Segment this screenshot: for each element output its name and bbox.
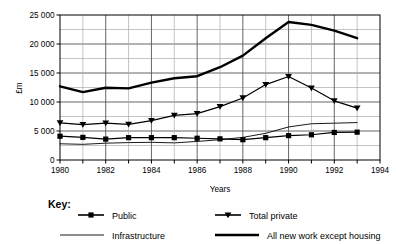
marker-square: [286, 133, 291, 138]
y-tick-label: 15 000: [29, 69, 54, 78]
marker-square: [149, 135, 154, 140]
y-tick-label: 20 000: [29, 40, 54, 49]
legend-label: Total private: [249, 211, 298, 221]
x-tick-label: 1990: [279, 166, 298, 175]
marker-square: [217, 136, 222, 141]
legend-label: All new work except housing: [267, 231, 381, 241]
legend-label: Public: [112, 211, 137, 221]
marker-square: [263, 135, 268, 140]
marker-square: [57, 134, 62, 139]
marker-square: [172, 135, 177, 140]
y-axis-title: £m: [15, 82, 24, 94]
x-tick-label: 1982: [97, 166, 116, 175]
x-tick-label: 1984: [142, 166, 161, 175]
x-tick-label: 1980: [51, 166, 70, 175]
x-axis-title: Years: [210, 185, 231, 194]
y-tick-label: 10 000: [29, 98, 54, 107]
construction-output-line-chart: 05 00010 00015 00020 00025 000 198019821…: [0, 0, 396, 244]
marker-square: [332, 130, 337, 135]
y-tick-label: 0: [50, 156, 55, 165]
y-tick-label: 25 000: [29, 11, 54, 20]
marker-square: [309, 132, 314, 137]
marker-square: [126, 135, 131, 140]
y-tick-label: 5 000: [34, 127, 55, 136]
x-tick-label: 1988: [234, 166, 253, 175]
marker-square: [88, 212, 93, 217]
marker-square: [103, 137, 108, 142]
chart-figure: 05 00010 00015 00020 00025 000 198019821…: [0, 0, 396, 244]
x-tick-label: 1994: [371, 166, 390, 175]
marker-square: [355, 130, 360, 135]
legend-title: Key:: [48, 198, 71, 210]
marker-square: [195, 136, 200, 141]
x-tick-label: 1992: [325, 166, 344, 175]
x-tick-label: 1986: [188, 166, 207, 175]
legend-label: Infrastructure: [112, 231, 165, 241]
marker-square: [80, 135, 85, 140]
